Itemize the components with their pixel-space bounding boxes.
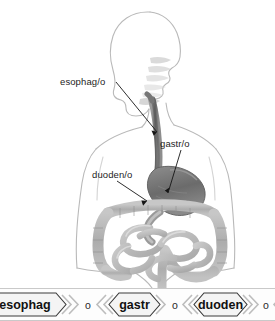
joiner-vowel-3: o: [263, 299, 269, 311]
svg-text:esophag: esophag: [0, 298, 51, 312]
word-chip-esophag[interactable]: esophag: [0, 293, 66, 316]
word-chip-gastr[interactable]: gastr: [109, 293, 160, 316]
label-stomach: gastr/o: [160, 138, 190, 149]
joiner-vowel-1: o: [85, 299, 91, 311]
joiner-vowel-2: o: [172, 299, 178, 311]
chevron-5b-icon: [249, 295, 258, 314]
anatomy-illustration: esophag/o gastr/o duoden/o: [0, 0, 275, 288]
leader-duodenum: [117, 181, 147, 201]
label-esophagus: esophag/o: [60, 76, 105, 87]
chevron-4-icon: [183, 295, 192, 314]
label-duodenum: duoden/o: [92, 169, 132, 180]
svg-text:gastr: gastr: [119, 298, 150, 312]
chevron-6-icon: [274, 295, 275, 314]
word-part-strip: esophag o gastr o duoden o: [0, 288, 275, 321]
svg-text:duoden: duoden: [198, 298, 243, 312]
word-chip-duoden[interactable]: duoden: [194, 293, 247, 316]
